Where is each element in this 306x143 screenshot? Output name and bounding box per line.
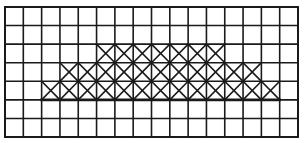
grid-svg xyxy=(0,0,306,143)
grid-diagram xyxy=(0,0,306,143)
